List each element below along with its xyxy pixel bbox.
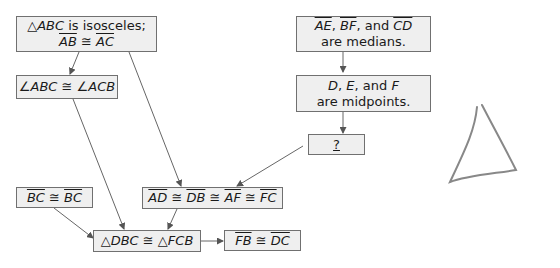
congruent-symbol: ≅ [45, 190, 64, 205]
point-d: D [328, 78, 338, 93]
arrow-angles-to-triangles [73, 99, 124, 229]
box-midpoints: D, E, and F are midpoints. [296, 75, 431, 112]
isosceles-text: is isosceles; [64, 18, 146, 33]
segment-bc: BC [64, 190, 82, 205]
congruent-symbol: ≅ [139, 233, 158, 248]
box-conclusion: FB ≅ DC [224, 230, 301, 251]
box-base-angles: ∠ABC ≅ ∠ACB [16, 75, 118, 99]
arrow-segments-to-triangles [168, 209, 177, 229]
midpoints-text: are midpoints. [317, 94, 411, 110]
separator: , and [355, 78, 392, 93]
angle-symbol: ∠ [77, 79, 89, 94]
segment-ac: AC [96, 34, 114, 49]
congruent-symbol: ≅ [57, 79, 76, 94]
segment-bf: BF [340, 18, 356, 33]
triangle-name: ABC [37, 18, 64, 33]
angle-symbol: ∠ [19, 79, 31, 94]
segment-cd: CD [393, 18, 412, 33]
segment-bc: BC [27, 190, 45, 205]
box-medians: AE, BF, and CD are medians. [296, 16, 431, 52]
box-reflexive: BC ≅ BC [16, 187, 93, 208]
arrow-unknown-to-segments [237, 146, 303, 186]
triangle-dbc: DBC [111, 233, 139, 248]
segment-ae: AE [315, 18, 332, 33]
triangle-symbol: △ [158, 233, 168, 248]
segment-af: AF [225, 190, 241, 205]
congruent-symbol: ≅ [205, 190, 224, 205]
congruent-symbol: ≅ [167, 190, 186, 205]
angle-acb: ACB [88, 79, 115, 94]
segment-fb: FB [235, 233, 251, 248]
arrow-isosceles-to-angles [70, 52, 79, 74]
arrow-isosceles-to-segments [129, 52, 181, 186]
congruent-symbol: ≅ [241, 190, 260, 205]
unknown-blank: ? [333, 137, 340, 153]
box-isosceles: △ABC is isosceles; AB ≅ AC [16, 16, 157, 52]
segment-ad: AD [148, 190, 167, 205]
angle-abc: ABC [31, 79, 58, 94]
segment-db: DB [186, 190, 205, 205]
segment-fc: FC [260, 190, 277, 205]
point-f: F [391, 78, 398, 93]
triangle-symbol: △ [101, 233, 111, 248]
triangle-fcb: FCB [168, 233, 193, 248]
segment-ab: AB [59, 34, 77, 49]
triangle-symbol: △ [27, 18, 37, 33]
separator: , [332, 18, 340, 33]
congruent-symbol: ≅ [77, 34, 96, 49]
separator: , and [356, 18, 393, 33]
sketch-triangle [450, 105, 516, 182]
arrow-reflexive-to-triangles [54, 208, 93, 238]
box-triangles: △DBC ≅ △FCB [93, 230, 201, 252]
congruent-symbol: ≅ [252, 233, 271, 248]
point-e: E [346, 78, 354, 93]
segment-dc: DC [271, 233, 290, 248]
medians-text: are medians. [321, 34, 406, 50]
box-unknown: ? [308, 134, 365, 155]
box-segments: AD ≅ DB ≅ AF ≅ FC [142, 187, 283, 209]
